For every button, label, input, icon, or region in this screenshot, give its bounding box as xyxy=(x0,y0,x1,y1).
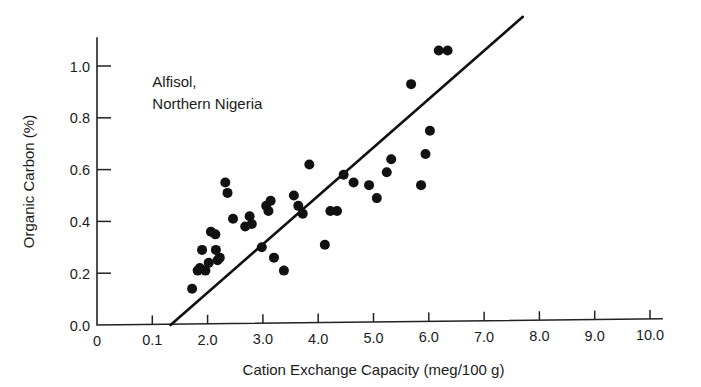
y-tick-label-1: 0.2 xyxy=(70,266,90,282)
annotation-line-2: Northern Nigeria xyxy=(152,95,263,112)
data-point xyxy=(279,266,289,276)
figure-container: 00.12.03.04.05.06.07.08.09.010.0 0.00.20… xyxy=(0,0,701,387)
data-point xyxy=(257,242,267,252)
data-point xyxy=(386,154,396,164)
annotation-line-1: Alfisol, xyxy=(152,73,196,90)
x-axis-title: Cation Exchange Capacity (meg/100 g) xyxy=(243,361,505,378)
data-point xyxy=(364,180,374,190)
data-point xyxy=(420,149,430,159)
x-axis-ticks: 00.12.03.04.05.06.07.08.09.010.0 xyxy=(93,310,664,349)
data-point xyxy=(289,191,299,201)
data-point xyxy=(349,178,359,188)
data-point xyxy=(339,170,349,180)
x-tick-label-0: 0 xyxy=(93,333,101,349)
y-tick-label-3: 0.6 xyxy=(70,162,90,178)
data-point xyxy=(416,180,426,190)
x-tick-label-10: 10.0 xyxy=(636,327,664,343)
data-point xyxy=(220,178,230,188)
x-tick-label-7: 7.0 xyxy=(474,329,494,345)
data-point xyxy=(269,253,279,263)
data-point xyxy=(210,229,220,239)
data-point xyxy=(425,126,435,136)
y-tick-label-4: 0.8 xyxy=(70,110,90,126)
x-tick-label-9: 9.0 xyxy=(585,328,605,344)
x-tick-label-6: 6.0 xyxy=(419,329,439,345)
data-point xyxy=(187,284,197,294)
data-point xyxy=(382,167,392,177)
x-tick-label-2: 2.0 xyxy=(198,332,218,348)
data-point xyxy=(304,159,314,169)
x-tick-label-1: 0.1 xyxy=(142,332,162,348)
scatter-plot: 00.12.03.04.05.06.07.08.09.010.0 0.00.20… xyxy=(0,0,701,387)
x-tick-label-5: 5.0 xyxy=(363,330,383,346)
data-point xyxy=(228,214,238,224)
x-tick-label-8: 8.0 xyxy=(529,328,549,344)
data-point xyxy=(263,206,273,216)
data-point xyxy=(266,196,276,206)
data-point xyxy=(298,209,308,219)
data-point xyxy=(197,245,207,255)
data-point xyxy=(406,79,416,89)
data-point xyxy=(204,258,214,268)
data-point xyxy=(247,219,257,229)
data-point xyxy=(320,240,330,250)
y-axis-title: Organic Carbon (%) xyxy=(20,115,37,248)
x-tick-label-4: 4.0 xyxy=(308,331,328,347)
data-point xyxy=(443,45,453,55)
data-points xyxy=(187,45,452,293)
y-tick-label-5: 1.0 xyxy=(70,59,90,75)
y-tick-label-0: 0.0 xyxy=(70,318,90,334)
y-tick-label-2: 0.4 xyxy=(70,214,90,230)
data-point xyxy=(372,193,382,203)
data-point xyxy=(215,253,225,263)
data-point xyxy=(434,45,444,55)
data-point xyxy=(223,188,233,198)
data-point xyxy=(332,206,342,216)
y-axis-ticks: 0.00.20.40.60.81.0 xyxy=(70,59,111,334)
x-tick-label-3: 3.0 xyxy=(253,331,273,347)
